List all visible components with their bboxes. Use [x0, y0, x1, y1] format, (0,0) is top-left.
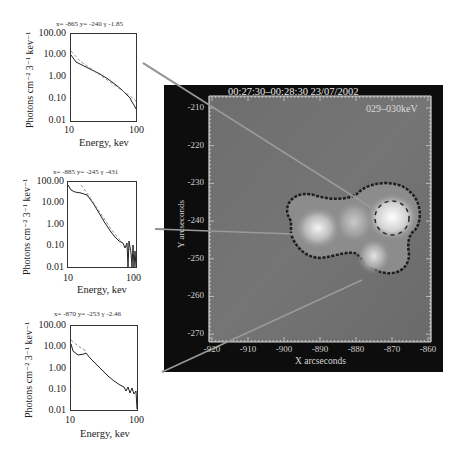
map-x-tick: -880	[341, 344, 371, 354]
map-y-tick: -230	[174, 177, 204, 187]
map-y-tick: -270	[174, 328, 204, 338]
map-x-tick: -860	[413, 344, 443, 354]
energy-band-label: 029–030keV	[366, 103, 418, 114]
map-x-tick: -910	[233, 344, 263, 354]
map-y-tick: -210	[174, 102, 204, 112]
map-y-tick: -260	[174, 290, 204, 300]
map-x-tick: -870	[377, 344, 407, 354]
map-y-tick: -250	[174, 253, 204, 263]
map-x-tick: -920	[197, 344, 227, 354]
map-x-tick: -890	[305, 344, 335, 354]
map-y-tick: -220	[174, 140, 204, 150]
map-x-tick: -900	[269, 344, 299, 354]
map-x-axis-label: X arcseconds	[295, 356, 346, 366]
map-y-axis-label: Y arcseconds	[176, 200, 186, 248]
connector-lines-overlay	[0, 0, 458, 452]
